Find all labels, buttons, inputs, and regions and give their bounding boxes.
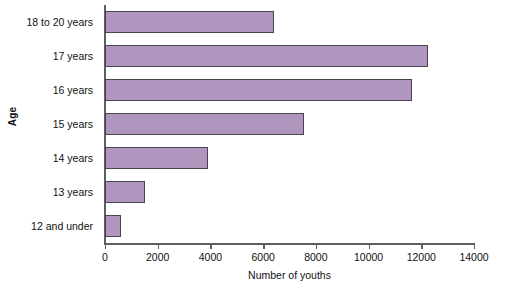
x-axis-title: Number of youths [105,269,474,281]
y-axis-tick-label: 16 years [0,85,100,96]
x-axis-tick-label: 4000 [199,251,222,263]
y-axis-tick-label: 13 years [0,187,100,198]
x-axis-ticks [105,244,474,249]
y-axis-tick-label: 14 years [0,153,100,164]
bar[interactable] [105,181,145,203]
x-axis-tick [210,244,211,249]
x-axis-tick [421,244,422,249]
x-axis-tick-label: 12000 [407,251,436,263]
bar[interactable] [105,215,121,237]
x-axis-tick [474,244,475,249]
bar-row [105,107,474,141]
bar[interactable] [105,11,274,33]
x-axis-tick [158,244,159,249]
y-axis-tick-label: 15 years [0,119,100,130]
x-axis-tick-label: 0 [102,251,108,263]
x-axis-tick-label: 2000 [146,251,169,263]
bar[interactable] [105,113,304,135]
bar[interactable] [105,147,208,169]
bar-row [105,209,474,243]
y-axis-tick-label: 12 and under [0,221,100,232]
bar-series [105,5,474,243]
bar-row [105,5,474,39]
plot-area [105,5,474,243]
bar-row [105,141,474,175]
bar-chart: Age 18 to 20 years 17 years 16 years 15 … [0,0,515,299]
x-axis-tick [316,244,317,249]
y-axis-tick-label: 18 to 20 years [0,17,100,28]
x-axis-tick-label: 10000 [354,251,383,263]
x-axis-tick [105,244,106,249]
x-axis-tick [263,244,264,249]
x-axis-tick-label: 8000 [304,251,327,263]
x-axis-tick [369,244,370,249]
bar[interactable] [105,79,412,101]
x-axis-tick-labels: 02000400060008000100001200014000 [105,251,474,265]
bar-row [105,73,474,107]
bar-row [105,175,474,209]
y-axis-tick-labels: 18 to 20 years 17 years 16 years 15 year… [0,5,100,243]
y-axis-tick-label: 17 years [0,51,100,62]
x-axis-tick-label: 14000 [459,251,488,263]
bar[interactable] [105,45,428,67]
bar-row [105,39,474,73]
x-axis-tick-label: 6000 [251,251,274,263]
